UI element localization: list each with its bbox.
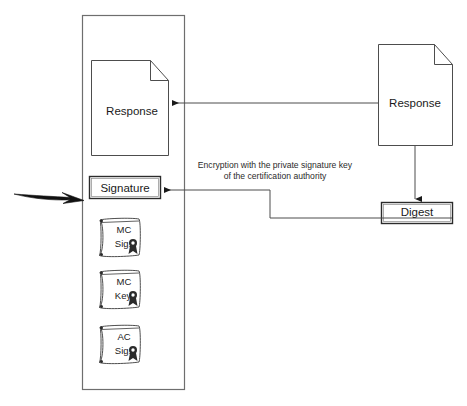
diagram-vector-layer <box>0 0 467 406</box>
certificate-3-line1: AC <box>109 331 139 342</box>
left-response-label: Response <box>99 104 165 118</box>
certificate-1-line1: MC <box>109 224 139 235</box>
encryption-annotation-line1: Encryption with the private signature ke… <box>196 160 354 171</box>
certificate-3-line2: Sig. <box>108 345 138 356</box>
certificate-1-line2: Sig. <box>108 238 138 249</box>
signature-label: Signature <box>90 181 160 195</box>
lightning-bolt-icon <box>14 193 84 204</box>
certificate-2-line2: Key <box>108 290 138 301</box>
encryption-annotation: Encryption with the private signature ke… <box>196 160 354 181</box>
certificate-2-line1: MC <box>109 276 139 287</box>
right-response-document-icon <box>379 45 453 146</box>
encryption-annotation-line2: of the certification authority <box>196 171 354 182</box>
right-response-label: Response <box>383 96 447 110</box>
digest-label: Digest <box>385 205 449 219</box>
diagram-canvas: Response Signature Response Digest Encry… <box>0 0 467 406</box>
